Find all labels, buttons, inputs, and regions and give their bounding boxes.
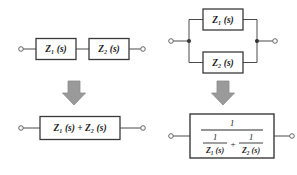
parallel-result-denom-term1-denominator: Z₁ (s) xyxy=(205,146,224,155)
impedance-combination-figure: Z₁ (s) Z₂ (s) Z₁ (s) + Z₂ (s) xyxy=(0,0,297,175)
parallel-left-terminal-circle[interactable] xyxy=(169,39,174,44)
series-right-terminal-circle[interactable] xyxy=(141,47,146,52)
parallel-result-denom-term2-numerator: 1 xyxy=(249,132,253,142)
parallel-result-denom-term2-denominator: Z₂ (s) xyxy=(241,146,260,155)
parallel-result-numerator: 1 xyxy=(230,118,234,128)
parallel-result-right-terminal-circle[interactable] xyxy=(290,134,295,139)
parallel-result-operator: + xyxy=(230,139,235,149)
series-result-left-terminal-circle[interactable] xyxy=(19,126,24,131)
series-block-z2-label: Z₂ (s) xyxy=(97,44,120,55)
series-left-terminal-circle[interactable] xyxy=(19,47,24,52)
parallel-result-left-terminal-circle[interactable] xyxy=(169,134,174,139)
parallel-block-z1-label: Z₁ (s) xyxy=(211,15,234,26)
parallel-right-terminal-circle[interactable] xyxy=(273,39,278,44)
series-result-right-terminal-circle[interactable] xyxy=(141,126,146,131)
parallel-result-denom-term1-numerator: 1 xyxy=(213,132,217,142)
series-result-block-label: Z₁ (s) + Z₂ (s) xyxy=(52,123,106,134)
series-block-z1-label: Z₁ (s) xyxy=(44,44,67,55)
parallel-block-z2-label: Z₂ (s) xyxy=(211,58,234,69)
